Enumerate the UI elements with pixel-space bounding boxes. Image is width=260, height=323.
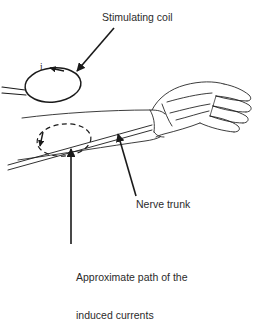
stimulating-coil-ellipse <box>23 65 82 105</box>
leader-arrow-stimulating-coil <box>77 28 114 71</box>
hand-outline <box>152 82 251 137</box>
label-induced-current-path: Approximate path of the induced currents <box>76 246 188 323</box>
label-stimulating-coil: Stimulating coil <box>102 11 173 24</box>
label-current-symbol-i: i <box>40 62 43 72</box>
nerve-trunk-band <box>8 125 152 170</box>
label-nerve-trunk: Nerve trunk <box>136 198 190 211</box>
coil-lead-wires <box>2 87 26 95</box>
label-induced-line-2: induced currents <box>76 309 188 322</box>
label-induced-line-1: Approximate path of the <box>76 271 188 284</box>
